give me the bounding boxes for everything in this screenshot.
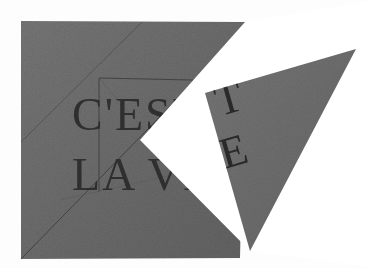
artwork-canvas: C'EST LA VI T E T E xyxy=(0,0,377,268)
artwork-svg: C'EST LA VI T E T E xyxy=(0,0,377,268)
